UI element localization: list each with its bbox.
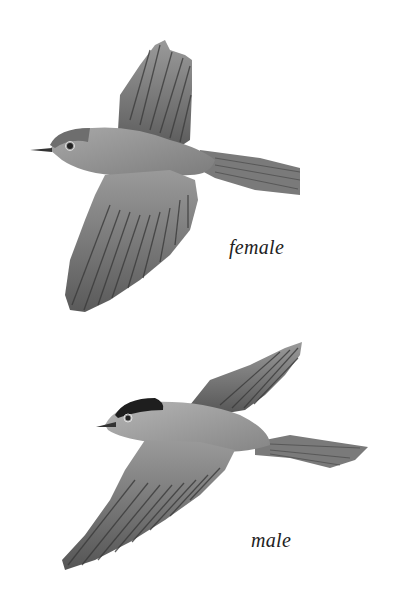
female-bird-illustration <box>0 0 393 320</box>
female-label: female <box>229 236 284 259</box>
male-label: male <box>251 529 291 552</box>
male-bird-illustration <box>0 320 393 603</box>
